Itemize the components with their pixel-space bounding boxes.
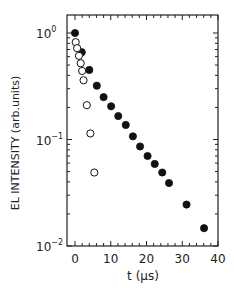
filled-data-point [100, 94, 107, 101]
y-axis-label: EL INTENSITY (arb.units) [9, 76, 22, 210]
filled-data-point [129, 133, 136, 140]
open-data-point [80, 77, 87, 84]
filled-data-point [115, 112, 122, 119]
filled-data-point [200, 225, 207, 232]
open-data-point [74, 45, 81, 52]
open-data-point [83, 102, 90, 109]
filled-data-point [151, 160, 158, 167]
filled-data-point [183, 201, 190, 208]
filled-data-point [165, 179, 172, 186]
x-tick-label: 10 [103, 252, 118, 266]
decay-chart: 010203040 10010−110−2 t (μs) EL INTENSIT… [0, 0, 234, 295]
data-points [71, 29, 207, 231]
filled-data-point [144, 152, 151, 159]
filled-data-point [136, 143, 143, 150]
y-tick-label: 10−2 [36, 238, 63, 254]
filled-data-point [71, 29, 78, 36]
x-tick-labels: 010203040 [71, 252, 225, 266]
filled-data-point [159, 169, 166, 176]
y-tick-label: 100 [36, 25, 56, 41]
filled-data-point [108, 103, 115, 110]
x-tick-label: 20 [139, 252, 154, 266]
filled-data-point [93, 82, 100, 89]
x-tick-label: 0 [71, 252, 79, 266]
open-data-point [75, 52, 82, 59]
filled-data-point [122, 121, 129, 128]
open-data-point [79, 67, 86, 74]
y-tick-label: 10−1 [36, 132, 63, 148]
open-data-point [77, 60, 84, 67]
y-tick-labels: 10010−110−2 [36, 25, 63, 254]
x-axis-label: t (μs) [127, 269, 159, 283]
filled-data-point [86, 66, 93, 73]
open-data-point [87, 130, 94, 137]
x-tick-label: 40 [210, 252, 225, 266]
open-data-point [91, 169, 98, 176]
x-tick-label: 30 [175, 252, 190, 266]
